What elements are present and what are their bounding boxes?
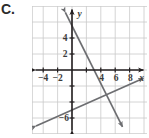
coordinate-plane: −4 −2 4 6 8 4 2 −6 y x — [32, 6, 147, 134]
x-axis-label: x — [138, 73, 144, 83]
x-tick-label-neg4: −4 — [38, 73, 48, 83]
y-tick-label-neg6: −6 — [59, 113, 69, 123]
x-tick-label-8: 8 — [128, 73, 133, 83]
y-tick-label-2: 2 — [63, 49, 68, 59]
y-axis-label: y — [76, 9, 82, 19]
y-tick-label-4: 4 — [63, 33, 68, 43]
x-tick-label-neg2: −2 — [53, 73, 63, 83]
graph-figure: C. — [0, 0, 149, 138]
coordinate-plane-svg: −4 −2 4 6 8 4 2 −6 y x — [32, 6, 147, 134]
x-tick-label-6: 6 — [114, 73, 119, 83]
item-letter-label: C. — [1, 2, 15, 16]
x-tick-label-4: 4 — [99, 73, 104, 83]
